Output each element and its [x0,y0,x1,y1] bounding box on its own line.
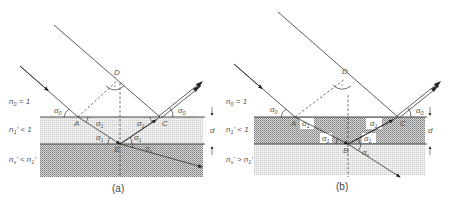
substrate-layer-b [254,144,425,175]
angle-label-alpha0-right-a: α0 [178,106,187,116]
point-label-d-a: D [114,68,120,77]
point-label-a-b: A [290,119,296,128]
angle-label-alpha0-right-b: α0 [416,106,425,116]
point-label-c-b: C [400,119,406,128]
thickness-label-a: d [210,126,215,135]
panel-a: d n0 = 1 n1' < 1 ns' < n1' D A B C α0 α0… [9,25,215,194]
medium-label-ns-b: ns' > n1' [226,155,253,165]
angle-label-alpha0-left-a: α0 [54,106,63,116]
wavefront-b [295,79,345,117]
medium-label-n0-a: n0 = 1 [9,97,30,107]
film-layer-a [40,117,203,144]
point-label-d-b: D [342,67,348,76]
point-label-b-b: B [343,146,349,155]
point-label-b-a: B [114,145,120,154]
medium-label-n1-a: n1' < 1 [9,125,32,135]
angle-label-alpha0-left-b: α0 [270,105,279,115]
angle-arc-alpha0-left-b [281,109,286,117]
caption-b: (b) [336,181,348,192]
point-label-c-a: C [162,119,168,128]
point-label-a-a: A [73,119,79,128]
caption-a: (a) [112,183,124,194]
wavefront-a [78,80,118,117]
medium-label-ns-a: ns' < n1' [9,155,36,165]
incident-ray-2-a [54,25,160,117]
medium-label-n1-b: n1' < 1 [226,125,249,135]
incident-arrow-b [234,64,262,89]
figure-canvas: d n0 = 1 n1' < 1 ns' < n1' D A B C α0 α0… [0,0,453,205]
panel-b: d n0 = 1 n1' < 1 ns' > n1' D A B C α0 α0… [226,12,441,192]
angle-arc-alpha0-left-a [64,109,69,117]
thickness-label-b: d [428,126,433,135]
incident-ray-2-b [278,12,398,117]
medium-label-n0-b: n0 = 1 [226,97,247,107]
incident-arrow-a [20,66,48,91]
